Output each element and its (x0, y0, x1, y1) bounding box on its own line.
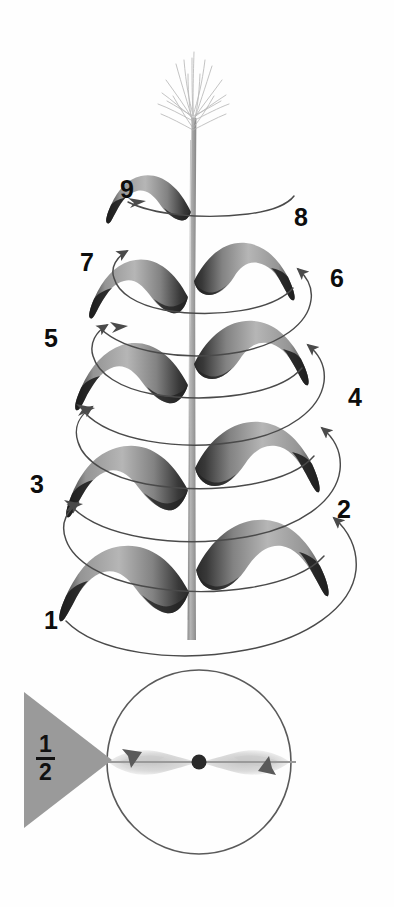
leaf-label-9: 9 (120, 177, 133, 202)
phyllotaxy-fraction-label: 1 2 (36, 733, 55, 785)
leaf-4 (195, 422, 320, 492)
plant-illustration (0, 0, 394, 907)
leaf-label-3: 3 (30, 472, 43, 497)
arrowhead-7 (110, 322, 128, 333)
leaf-label-7: 7 (80, 250, 93, 275)
leaf-label-5: 5 (44, 326, 57, 351)
cross-section-circle (102, 670, 296, 854)
leaf-7 (89, 259, 188, 318)
leaf-3 (66, 446, 188, 518)
fraction-denominator: 2 (37, 761, 54, 784)
figure-canvas: 1 2 3 4 5 6 7 8 9 1 2 (0, 0, 394, 907)
leaf-9 (106, 175, 191, 223)
plant-stem (187, 118, 196, 640)
leaf-label-2: 2 (337, 497, 350, 522)
leaf-8 (194, 243, 295, 301)
fraction-numerator: 1 (37, 733, 54, 756)
leaf-label-1: 1 (44, 608, 57, 633)
leaf-1 (59, 546, 189, 622)
leaf-label-4: 4 (348, 385, 361, 410)
leaf-label-6: 6 (330, 266, 343, 291)
spiral-segment-top (128, 196, 294, 216)
stem-axis-dot (192, 755, 207, 770)
leaf-label-8: 8 (294, 205, 307, 230)
